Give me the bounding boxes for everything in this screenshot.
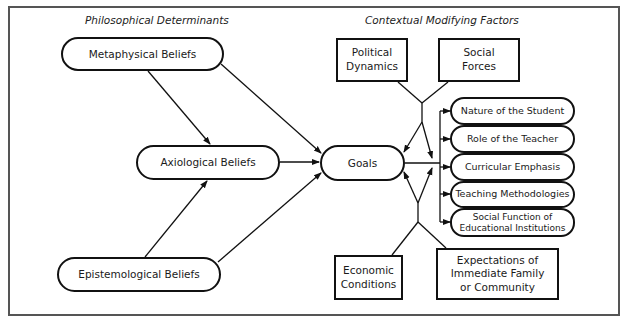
goals-node: Goals	[320, 145, 405, 181]
expectations-label: Expectations of Immediate Family or Comm…	[451, 254, 545, 295]
metaphysical-beliefs-node: Metaphysical Beliefs	[61, 37, 224, 71]
social-forces-box: Social Forces	[438, 38, 520, 82]
political-dynamics-box: Political Dynamics	[336, 38, 408, 82]
outcome-social-function: Social Function of Educational Instituti…	[450, 208, 575, 237]
goals-label: Goals	[348, 157, 377, 169]
outcome-curricular-emphasis: Curricular Emphasis	[450, 153, 575, 181]
axiological-beliefs-node: Axiological Beliefs	[136, 145, 280, 180]
epistemological-beliefs-node: Epistemological Beliefs	[57, 257, 221, 292]
economic-conditions-box: Economic Conditions	[334, 255, 403, 300]
outcome-label: Teaching Methodologies	[455, 189, 569, 200]
axiological-beliefs-label: Axiological Beliefs	[160, 156, 255, 168]
philosophical-determinants-heading: Philosophical Determinants	[85, 14, 229, 26]
expectations-box: Expectations of Immediate Family or Comm…	[436, 248, 559, 300]
outcome-label: Nature of the Student	[461, 106, 564, 117]
metaphysical-beliefs-label: Metaphysical Beliefs	[89, 48, 197, 60]
outcome-nature-of-student: Nature of the Student	[450, 97, 575, 125]
political-dynamics-label: Political Dynamics	[346, 46, 398, 73]
outcome-label: Role of the Teacher	[467, 134, 558, 145]
outcome-teaching-methodologies: Teaching Methodologies	[450, 181, 575, 208]
outcome-label: Social Function of Educational Instituti…	[460, 212, 566, 234]
contextual-factors-heading: Contextual Modifying Factors	[365, 14, 519, 26]
outcome-role-of-teacher: Role of the Teacher	[450, 125, 575, 153]
economic-conditions-label: Economic Conditions	[341, 264, 397, 291]
epistemological-beliefs-label: Epistemological Beliefs	[78, 268, 199, 280]
social-forces-label: Social Forces	[462, 46, 496, 73]
outcome-label: Curricular Emphasis	[465, 162, 560, 173]
